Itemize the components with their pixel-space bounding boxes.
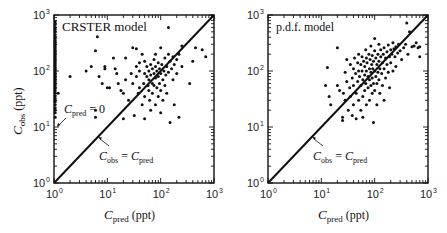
x-axis-label: Cpred (ppt) (104, 207, 155, 224)
pdf-panel: 100101102103100101102103p.d.f. modelCobs… (247, 8, 437, 224)
x-tick-exponent: 3 (433, 187, 437, 194)
y-tick-label: 10 (33, 9, 45, 21)
crster-panel: 100101102103100101102103CRSTER modelCobs… (10, 8, 223, 224)
x-tick-label: 10 (46, 188, 58, 200)
arrowhead-icon (98, 137, 102, 140)
y-tick-exponent: 3 (260, 8, 264, 15)
zero-prediction-annotation: Cpred = 0 (64, 102, 105, 118)
y-tick-label: 10 (247, 9, 259, 21)
x-tick-exponent: 0 (273, 187, 277, 194)
x-tick-exponent: 0 (59, 187, 63, 194)
y-tick-exponent: 1 (46, 120, 50, 127)
y-tick-label: 10 (33, 121, 45, 133)
y-tick-label: 10 (33, 65, 45, 77)
x-tick-exponent: 1 (112, 187, 116, 194)
y-tick-exponent: 1 (260, 120, 264, 127)
annotation-arrow (100, 139, 109, 146)
x-tick-exponent: 2 (380, 187, 384, 194)
identity-annotation: Cobs = Cpred (313, 149, 367, 165)
y-tick-exponent: 0 (46, 176, 50, 183)
annotation-arrow (59, 118, 66, 125)
x-tick-label: 10 (420, 188, 432, 200)
annotation-arrow (314, 139, 323, 146)
y-tick-label: 10 (247, 177, 259, 189)
x-tick-label: 10 (99, 188, 111, 200)
x-tick-label: 10 (260, 188, 272, 200)
x-tick-label: 10 (367, 188, 379, 200)
x-tick-exponent: 1 (326, 187, 330, 194)
y-axis-label: Cobs (ppt) (10, 87, 27, 135)
y-tick-exponent: 2 (46, 64, 50, 71)
figure: 100101102103100101102103CRSTER modelCobs… (0, 0, 447, 233)
x-tick-label: 10 (153, 188, 165, 200)
x-tick-exponent: 2 (166, 187, 170, 194)
y-tick-label: 10 (247, 121, 259, 133)
y-tick-label: 10 (33, 177, 45, 189)
panel-title: p.d.f. model (276, 20, 335, 34)
arrowhead-icon (312, 137, 316, 140)
x-tick-label: 10 (206, 188, 218, 200)
identity-annotation: Cobs = Cpred (99, 149, 153, 165)
y-tick-exponent: 2 (260, 64, 264, 71)
y-tick-exponent: 3 (46, 8, 50, 15)
y-tick-exponent: 0 (260, 176, 264, 183)
panel-title: CRSTER model (62, 19, 147, 34)
x-tick-label: 10 (313, 188, 325, 200)
x-axis-label: Cpred (ppt) (318, 207, 369, 224)
x-tick-exponent: 3 (219, 187, 223, 194)
y-tick-label: 10 (247, 65, 259, 77)
